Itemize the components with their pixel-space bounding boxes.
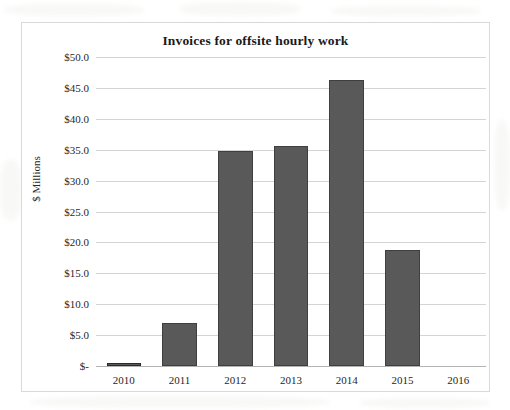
bar-slot: 2011 xyxy=(152,57,208,366)
y-axis-tick-label: $20.0 xyxy=(64,236,89,248)
y-axis-title: $ Millions xyxy=(30,119,42,239)
bar-slot: 2015 xyxy=(375,57,431,366)
y-axis-tick-label: $25.0 xyxy=(64,206,89,218)
y-axis-tick-label: $50.0 xyxy=(64,51,89,63)
y-axis-tick-label: $5.0 xyxy=(70,329,89,341)
bar-slot: 2016 xyxy=(430,57,486,366)
scan-artifact xyxy=(30,396,330,408)
x-axis-tick-label: 2013 xyxy=(263,374,319,386)
bar-slot: 2014 xyxy=(319,57,375,366)
x-axis-tick-label: 2014 xyxy=(319,374,375,386)
scan-artifact xyxy=(4,4,144,16)
plot-area: $-$5.0$10.0$15.0$20.0$25.0$30.0$35.0$40.… xyxy=(96,57,486,366)
chart-title: Invoices for offsite hourly work xyxy=(22,33,489,49)
bar-2011[interactable] xyxy=(162,323,197,366)
bar-2015[interactable] xyxy=(385,250,420,366)
chart-container: Invoices for offsite hourly work $ Milli… xyxy=(21,22,490,392)
x-axis-tick-label: 2012 xyxy=(207,374,263,386)
bar-slot: 2010 xyxy=(96,57,152,366)
x-axis-tick-label: 2016 xyxy=(430,374,486,386)
y-axis-tick-label: $10.0 xyxy=(64,298,89,310)
y-axis-tick-label: $15.0 xyxy=(64,267,89,279)
bar-slot: 2013 xyxy=(263,57,319,366)
axis-baseline: $- xyxy=(96,366,486,367)
bar-slot: 2012 xyxy=(207,57,263,366)
y-axis-tick-label: $45.0 xyxy=(64,82,89,94)
y-axis-tick-label: $- xyxy=(80,360,89,372)
y-axis-tick-label: $30.0 xyxy=(64,175,89,187)
bar-series: 2010201120122013201420152016 xyxy=(96,57,486,366)
bar-2010[interactable] xyxy=(107,363,142,366)
scan-artifact xyxy=(330,6,480,16)
x-axis-tick-label: 2011 xyxy=(152,374,208,386)
scan-artifact xyxy=(360,398,490,408)
x-axis-tick-label: 2015 xyxy=(375,374,431,386)
scan-artifact xyxy=(0,160,22,220)
bar-2013[interactable] xyxy=(274,146,309,366)
scan-artifact xyxy=(180,2,300,16)
y-axis-tick-label: $35.0 xyxy=(64,144,89,156)
bar-2012[interactable] xyxy=(218,151,253,366)
scan-artifact xyxy=(494,120,510,210)
y-axis-tick-label: $40.0 xyxy=(64,113,89,125)
x-axis-tick-label: 2010 xyxy=(96,374,152,386)
bar-2014[interactable] xyxy=(329,80,364,366)
